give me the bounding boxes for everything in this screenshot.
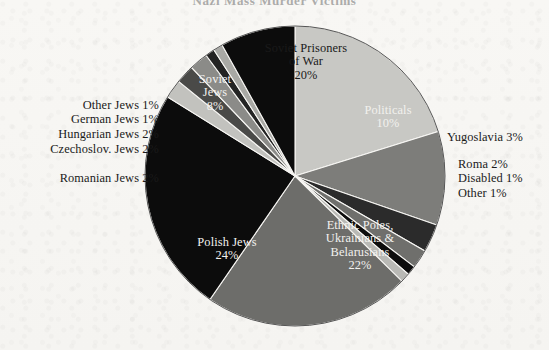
slice-label-politicals-line1: Politicals: [347, 104, 429, 117]
slice-label-czechoslov-jews: Czechoslov. Jews 2%: [0, 143, 159, 156]
pie-chart: Soviet Prisoners of War 20% Politicals 1…: [0, 0, 549, 350]
slice-label-politicals: Politicals 10%: [347, 104, 429, 131]
slice-label-soviet-pow-line1: Soviet Prisoners: [246, 42, 366, 55]
slice-label-soviet-jews-line1: Soviet: [183, 73, 247, 86]
slice-label-soviet-pow-line2: of War: [246, 55, 366, 68]
slice-label-ethnic-poles-line3: Belarusians: [297, 246, 423, 259]
slice-label-ethnic-poles: Ethnic Poles, Ukrainians & Belarusians 2…: [297, 219, 423, 273]
slice-label-soviet-jews: Soviet Jews 8%: [183, 73, 247, 113]
slice-label-romanian-jews: Romanian Jews 2%: [0, 172, 159, 185]
slice-label-polish-jews-pct: 24%: [175, 249, 279, 262]
slice-label-ethnic-poles-line2: Ukrainians &: [297, 232, 423, 245]
slice-label-ethnic-poles-pct: 22%: [297, 259, 423, 272]
slice-label-soviet-jews-pct: 8%: [183, 100, 247, 113]
slice-label-polish-jews-line1: Polish Jews: [175, 236, 279, 249]
slice-label-soviet-pow-pct: 20%: [246, 69, 366, 82]
slice-label-other-jews: Other Jews 1%: [0, 99, 159, 112]
slice-label-other: Other 1%: [458, 187, 549, 200]
slice-label-ethnic-poles-line1: Ethnic Poles,: [297, 219, 423, 232]
slice-label-yugoslavia: Yugoslavia 3%: [447, 131, 549, 144]
slice-label-disabled: Disabled 1%: [458, 172, 549, 185]
slice-label-roma: Roma 2%: [458, 158, 549, 171]
slice-label-politicals-pct: 10%: [347, 117, 429, 130]
slice-label-polish-jews: Polish Jews 24%: [175, 236, 279, 263]
slice-label-soviet-jews-line2: Jews: [183, 86, 247, 99]
slice-label-soviet-pow: Soviet Prisoners of War 20%: [246, 42, 366, 82]
slice-label-hungarian-jews: Hungarian Jews 2%: [0, 128, 159, 141]
slice-label-german-jews: German Jews 1%: [0, 113, 159, 126]
